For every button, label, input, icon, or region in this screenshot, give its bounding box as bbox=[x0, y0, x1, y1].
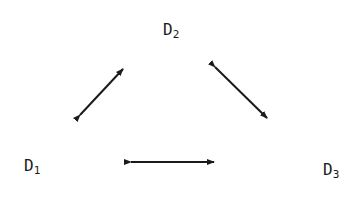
edge-d1-d2-arrow bbox=[80, 69, 123, 115]
edge-d2-d3-arrow bbox=[215, 67, 267, 118]
edges-layer bbox=[0, 0, 360, 201]
